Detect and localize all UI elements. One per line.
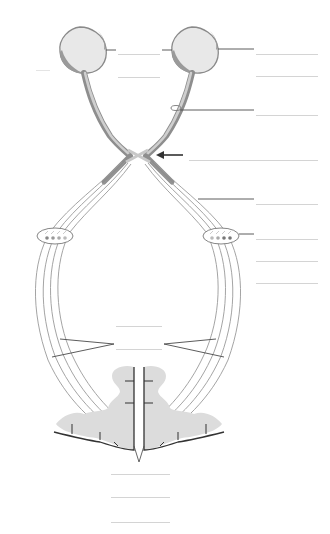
- left-optic-nerve: [84, 73, 131, 156]
- label-slot-2[interactable]: [256, 66, 318, 77]
- label-slot-5[interactable]: [256, 194, 318, 205]
- label-slot-12[interactable]: [116, 316, 162, 327]
- label-slot-1[interactable]: [256, 44, 318, 55]
- label-slot-16[interactable]: [111, 512, 170, 523]
- label-slot-9[interactable]: [118, 44, 160, 55]
- label-slot-11[interactable]: [36, 60, 50, 71]
- label-slot-7[interactable]: [256, 251, 318, 262]
- calcarine-notch: [134, 446, 144, 462]
- left-eye: [60, 27, 107, 74]
- right-lateral-geniculate-nucleus: [203, 228, 239, 244]
- label-slot-8[interactable]: [256, 273, 318, 284]
- leader-lines: [52, 49, 254, 357]
- label-slot-6[interactable]: [256, 229, 318, 240]
- visual-pathway-diagram: [0, 0, 330, 534]
- arrow-icon: [156, 151, 183, 159]
- label-slot-4[interactable]: [189, 150, 318, 161]
- left-visual-cortex: [54, 366, 134, 450]
- label-slot-15[interactable]: [111, 487, 170, 498]
- label-slot-13[interactable]: [116, 339, 162, 350]
- right-optic-nerve: [145, 73, 192, 156]
- label-slot-10[interactable]: [118, 67, 160, 78]
- label-slot-14[interactable]: [111, 464, 170, 475]
- right-visual-cortex: [144, 366, 224, 450]
- left-lateral-geniculate-nucleus: [37, 228, 73, 244]
- right-eye: [172, 27, 219, 74]
- label-slot-3[interactable]: [256, 105, 318, 116]
